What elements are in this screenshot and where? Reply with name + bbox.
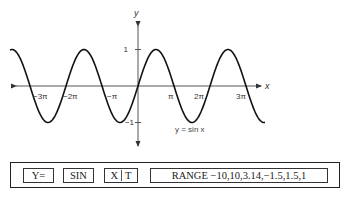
x-tick-label-2pi: 2π — [194, 92, 204, 101]
x-tick-label-3pi: 3π — [236, 92, 246, 101]
y-equals-key[interactable]: Y= — [23, 168, 54, 183]
y-tick-label-1: 1 — [124, 45, 129, 54]
x-tick-label-pi: π — [168, 92, 174, 101]
y-axis-label: y — [133, 8, 139, 18]
x-t-key[interactable]: XT — [104, 168, 138, 183]
equation-label: y = sin x — [175, 125, 205, 134]
x-t-key-x: X — [108, 169, 120, 182]
x-tick-label-neg3pi: −3π — [33, 92, 48, 101]
x-axis-label: x — [264, 81, 270, 91]
x-t-key-t: T — [123, 169, 133, 182]
range-key[interactable]: RANGE −10,10,3.14,−1.5,1.5,1 — [150, 168, 328, 183]
y-tick-label-neg1: −1 — [125, 118, 135, 127]
x-tick-label-neg2pi: −2π — [63, 92, 78, 101]
sine-graph: y x 1 −1 −3π −2π −π π 2π 3π y = sin x — [0, 0, 350, 150]
x-tick-label-negpi: −π — [107, 92, 118, 101]
x-t-key-divider — [121, 170, 122, 181]
calculator-key-sequence: Y= SIN XT RANGE −10,10,3.14,−1.5,1.5,1 — [10, 162, 340, 188]
sin-key[interactable]: SIN — [63, 168, 94, 183]
